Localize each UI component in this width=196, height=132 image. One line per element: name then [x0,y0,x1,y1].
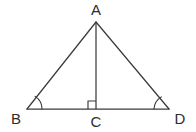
geometry-canvas: A B C D [0,0,196,132]
triangle-side-ad [96,22,169,109]
geometry-figure: A B C D [0,0,196,132]
right-angle-mark-c [88,101,96,109]
vertex-label-b: B [11,110,21,127]
triangle-side-ab [27,22,96,109]
vertex-label-d: D [175,110,186,127]
vertex-label-a: A [91,1,101,18]
vertex-label-c: C [91,113,102,130]
